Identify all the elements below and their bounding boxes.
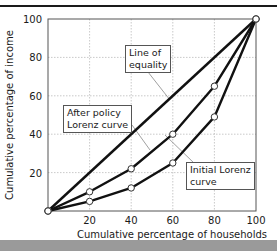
callout-text: curve bbox=[190, 176, 251, 188]
callout-text: Initial Lorenz bbox=[190, 164, 251, 176]
data-point-marker bbox=[211, 83, 217, 89]
callout-initial-lorenz: Initial Lorenz curve bbox=[186, 162, 255, 190]
callout-text: Line of bbox=[129, 47, 167, 59]
y-tick-label: 100 bbox=[23, 14, 42, 25]
data-point-marker bbox=[170, 160, 176, 166]
callout-text: equality bbox=[129, 59, 167, 71]
data-point-marker bbox=[45, 208, 51, 214]
data-point-marker bbox=[86, 198, 92, 204]
data-point-marker bbox=[128, 185, 134, 191]
data-point-marker bbox=[170, 131, 176, 137]
x-tick-label: 100 bbox=[246, 215, 265, 226]
callout-line-of-equality: Line of equality bbox=[125, 45, 171, 73]
data-point-marker bbox=[211, 114, 217, 120]
x-tick-label: 80 bbox=[208, 215, 221, 226]
x-tick-label: 60 bbox=[166, 215, 179, 226]
data-point-marker bbox=[128, 166, 134, 172]
x-axis-label: Cumulative percentage of households bbox=[77, 229, 267, 240]
callout-after-policy: After policy Lorenz curve bbox=[63, 105, 132, 133]
y-tick-label: 20 bbox=[29, 168, 42, 179]
y-tick-label: 40 bbox=[29, 129, 42, 140]
callout-text: After policy bbox=[67, 107, 128, 119]
lorenz-chart: 2040608010020406080100Cumulative percent… bbox=[0, 0, 277, 251]
bottom-band bbox=[0, 240, 277, 251]
callout-text: Lorenz curve bbox=[67, 119, 128, 131]
data-point-marker bbox=[253, 16, 259, 22]
leader-line-after-policy bbox=[132, 125, 150, 150]
y-tick-label: 80 bbox=[29, 52, 42, 63]
data-point-marker bbox=[86, 189, 92, 195]
y-tick-label: 60 bbox=[29, 91, 42, 102]
x-tick-label: 40 bbox=[125, 215, 138, 226]
x-tick-label: 20 bbox=[83, 215, 96, 226]
y-axis-label: Cumulative percentage of income bbox=[4, 30, 15, 200]
leader-line-initial bbox=[165, 135, 195, 164]
